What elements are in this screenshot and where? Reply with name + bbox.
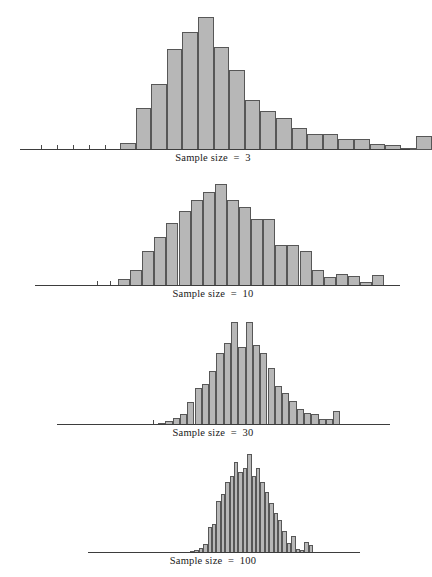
histogram-bar (260, 111, 276, 150)
histogram-bar (227, 200, 239, 287)
histogram-bar (154, 237, 166, 286)
baseline-axis-3 (57, 424, 390, 425)
histogram-bar (268, 368, 275, 426)
histogram-bar (275, 245, 287, 286)
histogram-bar (300, 251, 312, 286)
histogram-bar (151, 84, 167, 150)
baseline-axis-4 (88, 552, 360, 553)
histogram-bar (182, 32, 198, 150)
histogram-bar (289, 401, 296, 425)
histogram-bar (191, 200, 203, 287)
histogram-bar (209, 371, 216, 425)
histogram-bar (136, 108, 152, 150)
plot-area-2 (0, 170, 426, 286)
histogram-bar (275, 386, 282, 425)
histogram-bar (179, 211, 191, 286)
histogram-bar (214, 47, 230, 150)
histogram-bar (130, 270, 142, 286)
panel-caption-1: Sample size = 3 (0, 152, 426, 163)
histogram-bar (246, 322, 253, 425)
histogram-bar (416, 136, 432, 150)
plot-area-3 (0, 310, 426, 425)
histogram-bar (312, 270, 324, 286)
panel-caption-3: Sample size = 30 (0, 427, 426, 438)
bars-layer-2 (0, 170, 426, 286)
baseline-axis-2 (35, 285, 400, 286)
histogram-bar (167, 49, 183, 150)
histogram-bar (260, 353, 267, 425)
bars-layer-1 (0, 0, 426, 150)
histogram-panel-3: Sample size = 30 (0, 310, 426, 442)
histogram-bar (239, 207, 251, 286)
histogram-panel-2: Sample size = 10 (0, 170, 426, 310)
histogram-panel-1: Sample size = 3 (0, 0, 426, 170)
histogram-bar (198, 17, 214, 150)
panel-caption-4: Sample size = 100 (0, 555, 426, 566)
histogram-bar (251, 219, 263, 286)
histogram-panel-4: Sample size = 100 (0, 442, 426, 577)
histogram-bar (224, 343, 231, 425)
histogram-bar (292, 128, 308, 150)
bars-layer-4 (0, 442, 426, 553)
histogram-bar (202, 384, 209, 425)
histogram-bar (215, 184, 227, 286)
histogram-bar (297, 409, 304, 425)
histogram-bar (276, 118, 292, 150)
histogram-bar (195, 388, 202, 425)
histogram-bar (166, 223, 178, 286)
histogram-bar (187, 402, 194, 425)
histogram-bar (245, 100, 261, 150)
plot-area-4 (0, 442, 426, 553)
panel-caption-2: Sample size = 10 (0, 288, 426, 299)
histogram-bar (287, 245, 299, 286)
histogram-bar (263, 219, 275, 286)
histogram-bar (282, 393, 289, 425)
histogram-bar (203, 192, 215, 286)
histogram-bar (229, 70, 245, 150)
plot-area-1 (0, 0, 426, 150)
histogram-bar (333, 411, 340, 425)
histogram-bar (253, 345, 260, 425)
histogram-bar (216, 353, 223, 425)
histogram-bar (307, 134, 323, 150)
histogram-bar (238, 347, 245, 425)
histogram-bar (323, 134, 339, 150)
bars-layer-3 (0, 310, 426, 425)
histogram-bar (231, 322, 238, 425)
histogram-bar (142, 251, 154, 286)
baseline-axis-1 (20, 149, 410, 150)
